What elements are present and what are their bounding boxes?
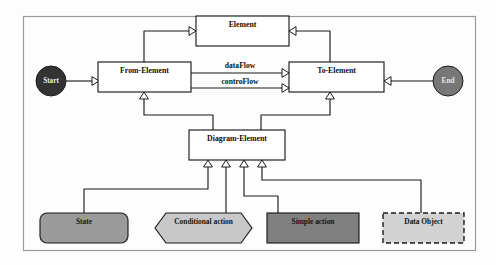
connector-from-element-to-element (144, 27, 196, 62)
shape-node-state[interactable]: State (40, 213, 128, 243)
class-node-to-element[interactable]: To-Element (289, 62, 384, 92)
shape-label-data-object: Data Object (404, 217, 443, 226)
class-node-from-element[interactable]: From-Element (98, 62, 191, 92)
connector-diagram-element-to-from-element (140, 92, 213, 130)
connector-to-element-to-element (289, 27, 330, 62)
connector-end-to-to-element (384, 77, 433, 86)
shape-label-conditional-action: Conditional action (174, 217, 233, 226)
class-diagram: Element From-Element To-Element Diagram-… (0, 0, 496, 265)
class-label-from-element: From-Element (120, 66, 169, 75)
shape-label-state: State (76, 217, 93, 226)
connector-state-to-diagram-element (84, 160, 212, 213)
class-label-to-element: To-Element (317, 66, 356, 75)
terminator-end[interactable]: End (433, 66, 463, 96)
connector-simple-action-to-diagram-element (240, 160, 278, 213)
connector-conditional-action-to-diagram-element (222, 160, 231, 213)
class-node-diagram-element[interactable]: Diagram-Element (189, 130, 285, 160)
shape-node-conditional-action[interactable]: Conditional action (155, 213, 252, 243)
terminator-label-start: Start (43, 77, 59, 85)
terminator-label-end: End (442, 77, 455, 85)
diagram-canvas: Element From-Element To-Element Diagram-… (0, 0, 496, 265)
connector-start-to-from-element (66, 77, 99, 86)
connector-diagram-element-to-to-element (261, 92, 334, 130)
edge-label-contro-flow: controFlow (222, 77, 259, 86)
edge-label-data-flow: dataFlow (225, 61, 256, 70)
class-label-diagram-element: Diagram-Element (207, 134, 267, 143)
shape-node-data-object[interactable]: Data Object (383, 213, 464, 243)
shape-node-simple-action[interactable]: Simple action (267, 213, 359, 243)
class-label-element: Element (229, 20, 257, 29)
shape-label-simple-action: Simple action (292, 217, 335, 226)
connector-data-object-to-diagram-element (258, 160, 421, 213)
class-node-element[interactable]: Element (196, 16, 289, 46)
terminator-start[interactable]: Start (36, 66, 66, 96)
